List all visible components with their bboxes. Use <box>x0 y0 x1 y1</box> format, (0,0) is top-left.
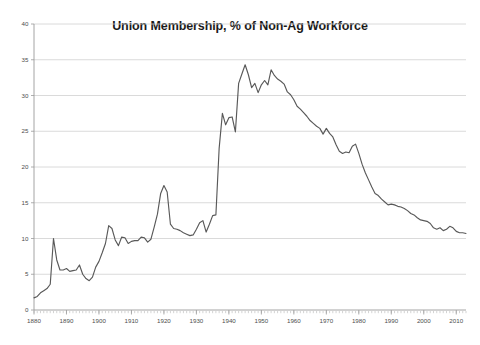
x-tick-label-1970: 1970 <box>319 317 333 324</box>
y-tick-label-0: 0 <box>25 306 29 313</box>
chart-container: Union Membership, % of Non-Ag Workforce … <box>0 0 480 345</box>
line-chart-plot: 0510152025303540 18801890190019101920193… <box>0 0 480 345</box>
x-tick-label-1940: 1940 <box>222 317 236 324</box>
y-axis-tick-labels: 0510152025303540 <box>22 20 29 313</box>
x-tick-label-2000: 2000 <box>417 317 431 324</box>
y-tick-label-20: 20 <box>22 163 29 170</box>
x-tick-label-1990: 1990 <box>384 317 398 324</box>
y-tick-label-25: 25 <box>22 127 29 134</box>
x-tick-label-1900: 1900 <box>92 317 106 324</box>
x-tick-label-1910: 1910 <box>125 317 139 324</box>
x-axis-tick-labels: 1880189019001910192019301940195019601970… <box>27 317 464 324</box>
x-tick-label-2010: 2010 <box>449 317 463 324</box>
y-tick-label-5: 5 <box>25 270 29 277</box>
x-tick-label-1950: 1950 <box>254 317 268 324</box>
y-tick-label-35: 35 <box>22 56 29 63</box>
x-tick-label-1980: 1980 <box>352 317 366 324</box>
x-tick-label-1930: 1930 <box>190 317 204 324</box>
gridlines <box>34 24 466 274</box>
axis-lines <box>31 24 466 315</box>
series-line-0 <box>34 65 466 298</box>
x-tick-label-1920: 1920 <box>157 317 171 324</box>
y-tick-label-15: 15 <box>22 199 29 206</box>
x-tick-label-1960: 1960 <box>287 317 301 324</box>
y-tick-label-30: 30 <box>22 92 29 99</box>
y-tick-label-10: 10 <box>22 235 29 242</box>
x-tick-label-1890: 1890 <box>60 317 74 324</box>
series-union-membership <box>34 65 466 298</box>
x-tick-label-1880: 1880 <box>27 317 41 324</box>
y-tick-label-40: 40 <box>22 20 29 27</box>
